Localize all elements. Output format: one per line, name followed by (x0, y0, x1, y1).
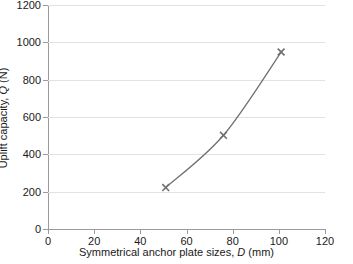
x-axis-tick (94, 229, 95, 234)
y-axis-tick-label: 1200 (17, 0, 41, 11)
x-axis-title-after: (mm) (245, 246, 274, 258)
x-axis-title: Symmetrical anchor plate sizes, D (mm) (0, 247, 353, 258)
chart-figure: 020040060080010001200020406080100120 Sym… (0, 0, 353, 264)
y-axis-tick (43, 5, 48, 6)
x-axis-tick (48, 229, 49, 234)
x-axis-tick (187, 229, 188, 234)
gridline-horizontal (48, 154, 325, 155)
y-axis-tick (43, 154, 48, 155)
x-axis-tick (325, 229, 326, 234)
y-axis-tick-label: 600 (23, 112, 41, 123)
x-axis-tick (233, 229, 234, 234)
y-axis-tick (43, 80, 48, 81)
gridline-horizontal (48, 42, 325, 43)
y-axis-tick (43, 117, 48, 118)
plot-area: 020040060080010001200020406080100120 (48, 5, 325, 229)
y-axis-title: Uplift capacity, Q (N) (0, 68, 9, 169)
gridline-horizontal (48, 80, 325, 81)
y-axis-tick-label: 0 (35, 224, 41, 235)
y-axis-tick-label: 800 (23, 74, 41, 85)
y-axis-title-before: Uplift capacity, (0, 95, 9, 169)
x-axis-tick (140, 229, 141, 234)
x-axis-tick-label: 120 (316, 236, 334, 247)
y-axis-title-after: (N) (0, 68, 9, 86)
gridline-horizontal (48, 5, 325, 6)
gridline-horizontal (48, 192, 325, 193)
y-axis-tick (43, 42, 48, 43)
y-axis-tick-label: 200 (23, 186, 41, 197)
y-axis-tick (43, 192, 48, 193)
x-axis-tick (279, 229, 280, 234)
x-axis-title-before: Symmetrical anchor plate sizes, (79, 246, 237, 258)
gridline-horizontal (48, 117, 325, 118)
y-axis-tick-label: 400 (23, 149, 41, 160)
y-axis-title-symbol: Q (0, 86, 9, 95)
y-axis-tick-label: 1000 (17, 37, 41, 48)
x-axis-tick-label: 0 (45, 236, 51, 247)
